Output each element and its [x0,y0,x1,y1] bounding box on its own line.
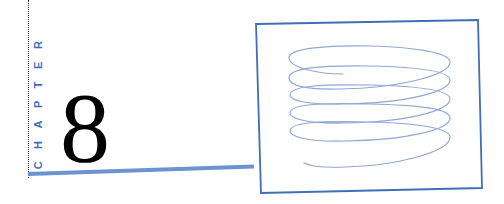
spiral-figure [0,0,504,204]
spiral-coil-icon [289,46,450,167]
